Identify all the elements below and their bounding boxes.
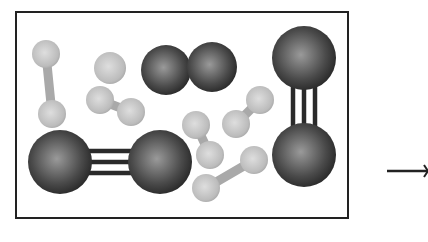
hydrogen-atom: [246, 86, 274, 114]
nitrogen-molecules: [28, 26, 336, 194]
hydrogen-molecule: [222, 86, 274, 138]
hydrogen-atom: [94, 52, 126, 84]
nitrogen-atom: [187, 42, 237, 92]
reaction-diagram: [0, 0, 428, 242]
hydrogen-atom: [86, 86, 114, 114]
hydrogen-molecule: [86, 86, 145, 126]
hydrogen-atom: [32, 40, 60, 68]
nitrogen-molecule: [272, 26, 336, 187]
nitrogen-atom: [272, 123, 336, 187]
nitrogen-atom: [272, 26, 336, 90]
hydrogen-atom: [38, 100, 66, 128]
hydrogen-molecule: [94, 52, 126, 84]
nitrogen-atom: [128, 130, 192, 194]
hydrogen-molecule: [32, 40, 66, 128]
reaction-arrow-icon: [387, 165, 428, 177]
nitrogen-molecule: [28, 130, 192, 194]
hydrogen-atom: [182, 111, 210, 139]
hydrogen-atom: [222, 110, 250, 138]
hydrogen-atom: [196, 141, 224, 169]
nitrogen-atom: [141, 45, 191, 95]
hydrogen-atom: [117, 98, 145, 126]
nitrogen-molecule: [141, 42, 237, 95]
nitrogen-atom: [28, 130, 92, 194]
hydrogen-atom: [240, 146, 268, 174]
hydrogen-atom: [192, 174, 220, 202]
